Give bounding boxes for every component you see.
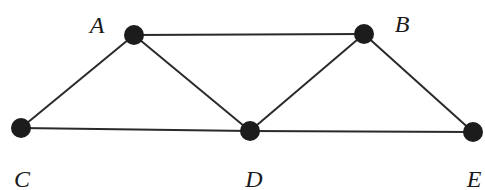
node-label-C: C xyxy=(14,166,31,190)
edge-C-D xyxy=(21,128,250,131)
edge-A-B xyxy=(134,34,364,35)
node-label-D: D xyxy=(244,166,262,190)
nodes xyxy=(11,24,483,142)
edges xyxy=(21,34,473,132)
node-A xyxy=(124,25,144,45)
edge-D-E xyxy=(250,131,473,132)
node-label-B: B xyxy=(395,11,410,37)
node-E xyxy=(463,122,483,142)
node-C xyxy=(11,118,31,138)
node-label-E: E xyxy=(466,166,482,190)
node-D xyxy=(240,121,260,141)
edge-A-C xyxy=(21,35,134,128)
edge-B-D xyxy=(250,34,364,131)
graph-diagram: ABCDE xyxy=(0,0,485,190)
edge-A-D xyxy=(134,35,250,131)
node-B xyxy=(354,24,374,44)
edge-B-E xyxy=(364,34,473,132)
node-label-A: A xyxy=(88,12,105,38)
labels: ABCDE xyxy=(14,11,482,190)
